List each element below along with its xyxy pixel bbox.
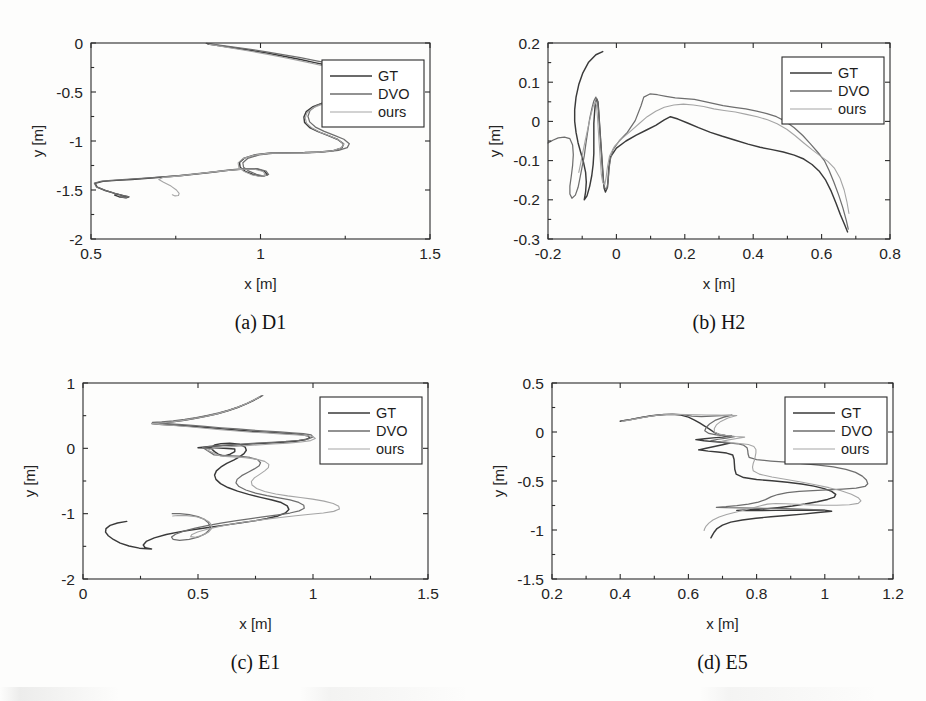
panel-d-xtick-label: 1.2 xyxy=(882,585,904,602)
panel-a-xtick-label: 0.5 xyxy=(80,245,102,262)
panel-d-ytick-label: -1.5 xyxy=(517,571,544,588)
panel-b-xtick-label: 0.4 xyxy=(742,245,764,262)
panel-d-ytick-label: 0 xyxy=(535,424,544,441)
panel-d-caption: (d) E5 xyxy=(697,651,748,674)
panel-a-ytick-label: -1.5 xyxy=(56,182,83,199)
panel-c-xtick-label: 0 xyxy=(79,585,88,602)
panel-c-ytick-label: -1 xyxy=(61,505,75,522)
panel-a-ytick-label: -2 xyxy=(69,231,83,248)
panel-a-ytick-label: 0 xyxy=(74,35,83,52)
panel-d-xtick-label: 1 xyxy=(820,585,829,602)
panel-a-ytick-label: -0.5 xyxy=(56,84,83,101)
panel-b-xtick-label: 0.2 xyxy=(674,245,696,262)
panel-a-legend-label-gt: GT xyxy=(378,68,398,84)
panel-c-legend-label-gt: GT xyxy=(376,405,396,421)
panel-b-xtick-label: 0 xyxy=(612,245,621,262)
panel-d-xtick-label: 0.4 xyxy=(609,585,631,602)
panel-b-ylabel: y [m] xyxy=(486,125,503,158)
panel-d-ytick-label: -1 xyxy=(530,522,544,539)
panel-c-xlabel: x [m] xyxy=(239,615,272,632)
page-caption-smudge xyxy=(0,687,926,701)
panel-c-caption: (c) E1 xyxy=(231,651,280,674)
panel-c-xtick-label: 1 xyxy=(309,585,318,602)
panel-b-xtick-label: 0.8 xyxy=(879,245,901,262)
panel-d-ylabel: y [m] xyxy=(490,465,507,498)
panel-c-ytick-label: -2 xyxy=(61,571,75,588)
panel-c-e1: 00.511.510-1-2x [m]y [m](c) E1GTDVOours xyxy=(0,350,463,701)
panel-d-e5: 0.20.40.60.811.20.50-0.5-1-1.5x [m]y [m]… xyxy=(463,350,926,701)
panel-b-xlabel: x [m] xyxy=(703,275,736,292)
panel-d-xtick-label: 0.8 xyxy=(746,585,768,602)
panel-d-legend-label-ours: ours xyxy=(841,441,869,457)
panel-d-ytick-label: -0.5 xyxy=(517,473,544,490)
panel-b-legend-label-dvo: DVO xyxy=(838,83,869,99)
panel-a-xlabel: x [m] xyxy=(244,275,277,292)
panel-d-xtick-label: 0.6 xyxy=(678,585,700,602)
panel-a-caption: (a) D1 xyxy=(235,311,287,334)
panel-b-h2: -0.200.20.40.60.80.20.10-0.1-0.2-0.3x [m… xyxy=(463,0,926,350)
panel-b-ytick-label: 0 xyxy=(531,113,540,130)
panel-d-ytick-label: 0.5 xyxy=(522,375,544,392)
panel-c-xtick-label: 0.5 xyxy=(187,585,209,602)
panel-a-xtick-label: 1.5 xyxy=(419,245,441,262)
panel-a-ytick-label: -1 xyxy=(69,133,83,150)
panel-d-xtick-label: 0.2 xyxy=(541,585,563,602)
panel-b-caption: (b) H2 xyxy=(693,311,746,334)
panel-b-legend-label-gt: GT xyxy=(838,65,858,81)
panel-d-legend-label-dvo: DVO xyxy=(841,423,872,439)
panel-d-canvas: 0.20.40.60.811.20.50-0.5-1-1.5x [m]y [m]… xyxy=(463,350,926,701)
panel-b-xtick-label: 0.6 xyxy=(811,245,833,262)
panel-b-legend-label-ours: ours xyxy=(838,101,866,117)
panel-b-canvas: -0.200.20.40.60.80.20.10-0.1-0.2-0.3x [m… xyxy=(463,0,926,350)
panel-c-series-dvo xyxy=(152,396,313,541)
panel-c-ytick-label: 0 xyxy=(66,440,75,457)
panel-b-ytick-label: 0.1 xyxy=(518,74,540,91)
panel-b-ytick-label: -0.1 xyxy=(513,152,540,169)
panel-d-xlabel: x [m] xyxy=(706,615,739,632)
panel-a-legend-label-dvo: DVO xyxy=(378,86,409,102)
panel-c-canvas: 00.511.510-1-2x [m]y [m](c) E1GTDVOours xyxy=(0,350,463,701)
panel-a-canvas: 0.511.50-0.5-1-1.5-2x [m]y [m](a) D1GTDV… xyxy=(0,0,463,350)
panel-b-xtick-label: -0.2 xyxy=(535,245,562,262)
figure-grid: 0.511.50-0.5-1-1.5-2x [m]y [m](a) D1GTDV… xyxy=(0,0,926,701)
panel-a-xtick-label: 1 xyxy=(256,245,265,262)
panel-a-legend-label-ours: ours xyxy=(378,104,406,120)
panel-c-series-ours xyxy=(152,397,340,537)
panel-d-legend-label-gt: GT xyxy=(841,405,861,421)
panel-c-ytick-label: 1 xyxy=(66,375,75,392)
panel-c-legend-label-ours: ours xyxy=(376,441,404,457)
panel-c-ylabel: y [m] xyxy=(21,465,38,498)
panel-b-ytick-label: 0.2 xyxy=(518,35,540,52)
panel-a-ylabel: y [m] xyxy=(29,125,46,158)
panel-b-ytick-label: -0.3 xyxy=(513,231,540,248)
panel-a-d1: 0.511.50-0.5-1-1.5-2x [m]y [m](a) D1GTDV… xyxy=(0,0,463,350)
panel-b-ytick-label: -0.2 xyxy=(513,191,540,208)
panel-c-xtick-label: 1.5 xyxy=(417,585,439,602)
panel-c-legend-label-dvo: DVO xyxy=(376,423,407,439)
